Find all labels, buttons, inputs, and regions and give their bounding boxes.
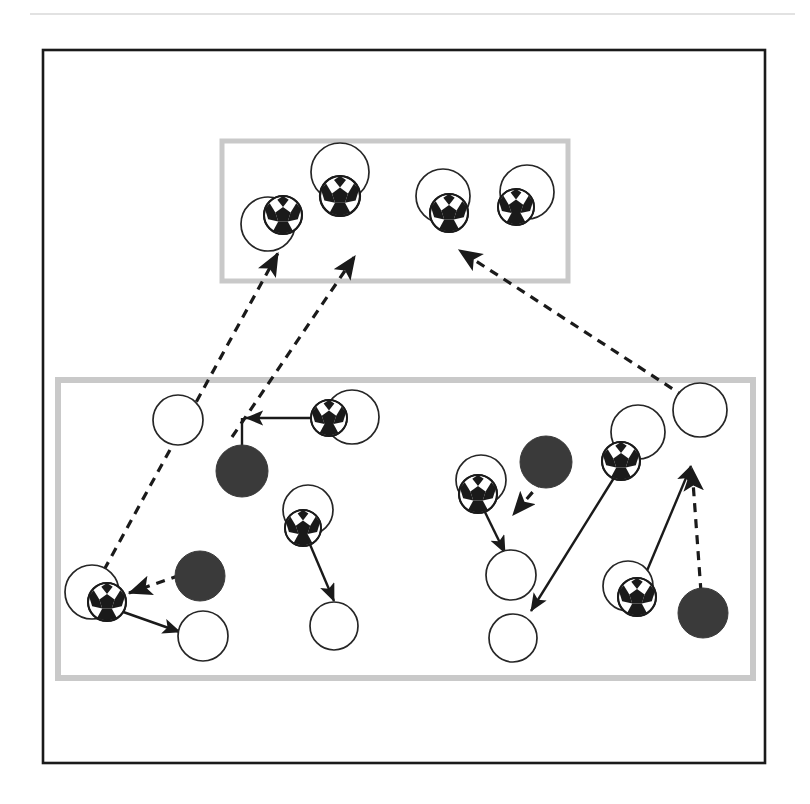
pitch-outer-frame bbox=[43, 50, 765, 763]
player-mid-rightE bbox=[673, 383, 727, 437]
ball-mid-rightA bbox=[459, 475, 497, 513]
ball-mid-center bbox=[285, 510, 321, 546]
diagram-page bbox=[0, 0, 810, 804]
opponent-mid-lowerleft bbox=[175, 551, 225, 601]
player-mid-rightC bbox=[489, 614, 537, 662]
player-mid-centerlow bbox=[310, 602, 358, 650]
opponent-mid-center bbox=[520, 436, 572, 488]
ball-mid-leftlow bbox=[88, 583, 126, 621]
opponent-mid-right bbox=[678, 588, 728, 638]
ball-top-right bbox=[498, 189, 534, 225]
ball-top-centerleft bbox=[320, 176, 360, 216]
press-arrow-opponent-right bbox=[692, 468, 701, 592]
outer-frame-group bbox=[43, 50, 765, 763]
ball-mid-rightD bbox=[602, 442, 640, 480]
player-mid-rightB bbox=[486, 550, 536, 600]
pass-arrow-rightF-up bbox=[641, 466, 691, 585]
opponent-mid-upperleft bbox=[216, 445, 268, 497]
soccer-drill-diagram bbox=[0, 0, 810, 804]
ball-top-centerright bbox=[430, 194, 468, 232]
ball-mid-rightF bbox=[618, 578, 656, 616]
player-mid-leftpost bbox=[153, 395, 203, 445]
player-mid-leftlow2 bbox=[178, 611, 228, 661]
ball-top-left bbox=[264, 196, 302, 234]
ball-mid-carrier1 bbox=[311, 400, 347, 436]
